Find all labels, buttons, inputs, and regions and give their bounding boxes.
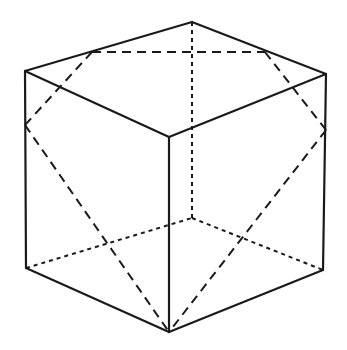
cross-section bbox=[25, 52, 326, 332]
edge-left-vertical bbox=[25, 71, 26, 268]
edge-top-left-front bbox=[25, 71, 169, 137]
edge-right-vertical bbox=[323, 74, 326, 270]
section-top-left-to-left-edge bbox=[25, 52, 92, 125]
edge-top-left-back bbox=[25, 22, 192, 71]
hidden-edges bbox=[26, 22, 323, 270]
visible-edges bbox=[25, 22, 326, 332]
hidden-edge-bottom-left-back bbox=[26, 218, 192, 268]
edge-top-back-right bbox=[192, 22, 326, 74]
hidden-edge-bottom-back-right bbox=[192, 218, 323, 270]
cube-diagram bbox=[0, 0, 347, 350]
section-top-right-to-right-edge bbox=[265, 52, 326, 130]
